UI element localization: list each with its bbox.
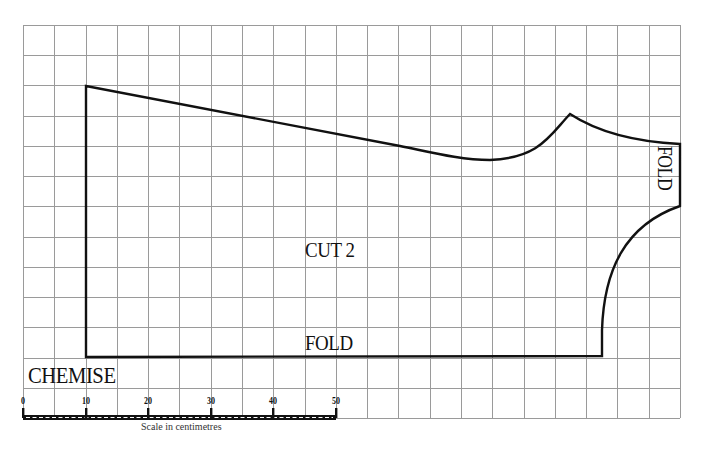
pattern-title: CHEMISE — [28, 362, 116, 389]
scale-tick — [22, 408, 24, 418]
scale-tick — [85, 408, 87, 418]
scale-tick-label: 40 — [269, 395, 277, 406]
scale-tick — [147, 408, 149, 418]
grid — [23, 25, 681, 419]
scale-tick-label: 10 — [82, 395, 90, 406]
scale-tick-label: 30 — [207, 395, 215, 406]
scale-caption: Scale in centimetres — [141, 421, 222, 432]
scale-tick-label: 50 — [332, 395, 340, 406]
scale-tick-label: 0 — [21, 395, 25, 406]
pattern-piece-outline — [86, 86, 680, 357]
scale-tick-label: 20 — [144, 395, 152, 406]
scale-tick — [335, 408, 337, 418]
scale-tick — [210, 408, 212, 418]
fold-label-side: FOLD — [653, 146, 676, 190]
cut-instruction-label: CUT 2 — [305, 237, 355, 263]
fold-label-bottom: FOLD — [305, 330, 353, 356]
scale-tick — [272, 408, 274, 418]
